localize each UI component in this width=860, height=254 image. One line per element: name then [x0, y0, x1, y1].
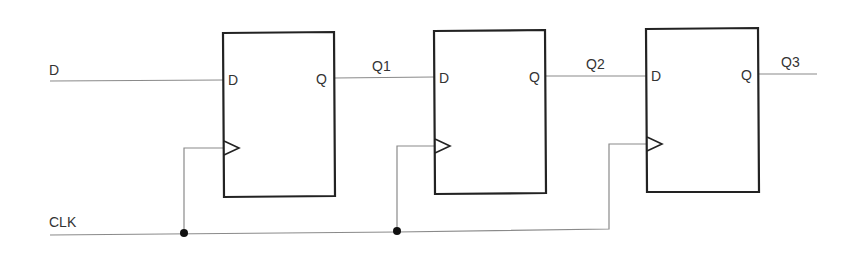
clk-branch-ff1 — [184, 148, 223, 234]
q3-output-label: Q3 — [781, 55, 800, 69]
q2-output-label: Q2 — [586, 57, 605, 71]
clk-bus-wire — [50, 144, 646, 235]
d-input-label: D — [49, 63, 59, 77]
ff3-q-pin-label: Q — [741, 68, 752, 82]
flip-flop-3 — [646, 28, 759, 192]
clk-branch-ff2 — [397, 146, 434, 232]
flip-flop-1 — [223, 32, 335, 197]
q1-output-label: Q1 — [372, 59, 391, 73]
circuit-wires — [0, 0, 860, 254]
ff1-d-pin-label: D — [228, 73, 238, 87]
shift-register-diagram: D CLK Q1 Q2 Q3 D Q D Q D Q — [0, 0, 860, 254]
q1-wire — [334, 77, 434, 78]
junction-dot-2 — [393, 227, 401, 235]
flip-flop-2 — [434, 30, 546, 194]
clk-input-label: CLK — [49, 215, 76, 229]
d-input-wire — [50, 80, 223, 81]
ff2-q-pin-label: Q — [529, 70, 540, 84]
ff2-d-pin-label: D — [439, 71, 449, 85]
junction-dot-1 — [180, 229, 188, 237]
ff1-q-pin-label: Q — [316, 72, 327, 86]
ff3-d-pin-label: D — [651, 69, 661, 83]
